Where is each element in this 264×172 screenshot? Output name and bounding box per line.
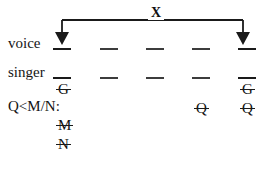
voice-slot-5 (238, 48, 256, 50)
segment-g-left-glyph: G (57, 82, 70, 97)
voice-slot-4 (192, 48, 210, 50)
singer-slot-1 (53, 77, 71, 79)
association-bracket (0, 0, 264, 60)
segment-q-mid-glyph: Q (195, 101, 208, 116)
singer-slot-3 (146, 77, 164, 79)
segment-q-right-glyph: Q (241, 101, 254, 116)
segment-g-right-glyph: G (241, 82, 254, 97)
voice-slot-3 (146, 48, 164, 50)
voice-slot-1 (53, 48, 71, 50)
singer-slot-5 (238, 77, 256, 79)
tier-label-singer: singer (8, 65, 45, 80)
tier-label-voice: voice (8, 36, 40, 51)
constraint-expression: Q<M/N: (8, 99, 60, 114)
voice-slot-2 (100, 48, 118, 50)
singer-slot-2 (100, 77, 118, 79)
association-label: X (148, 6, 164, 20)
segment-m-left-glyph: M (57, 118, 72, 133)
segment-n-left-glyph: N (57, 137, 70, 152)
segment-q-mid: Q (195, 101, 208, 116)
tier-diagram-figure: X voice singer G G Q Q M N Q<M/N: (0, 0, 264, 172)
segment-n-left: N (57, 137, 70, 152)
segment-g-right: G (241, 82, 254, 97)
segment-q-right: Q (241, 101, 254, 116)
singer-slot-4 (192, 77, 210, 79)
segment-g-left: G (57, 82, 70, 97)
segment-m-left: M (57, 118, 72, 133)
